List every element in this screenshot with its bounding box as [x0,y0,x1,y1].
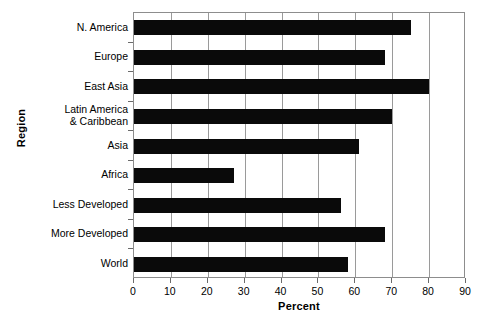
gridline-70 [392,13,393,277]
y-axis-tick [128,42,133,43]
gridline-80 [429,13,430,277]
category-label: East Asia [18,81,128,93]
x-axis-tick-50 [317,278,318,283]
category-label: More Developed [18,228,128,240]
category-label: N. America [18,22,128,34]
category-label: World [18,258,128,270]
category-axis-labels: N. AmericaEuropeEast AsiaLatin America &… [18,12,128,278]
x-axis-tick-label: 70 [376,285,406,297]
x-axis-tick-label: 90 [450,285,480,297]
x-axis-tick-40 [281,278,282,283]
y-axis-tick [128,219,133,220]
bar [134,227,385,242]
y-axis-tick [128,130,133,131]
x-axis-tick-label: 80 [413,285,443,297]
bar [134,198,341,213]
bar [134,109,392,124]
x-axis-tick-label: 60 [339,285,369,297]
x-axis-tick-label: 40 [266,285,296,297]
bar [134,79,429,94]
category-label: Asia [18,140,128,152]
x-axis-tick-20 [207,278,208,283]
bar [134,168,234,183]
bar [134,50,385,65]
category-label: Latin America & Caribbean [18,104,128,127]
y-axis-tick [128,71,133,72]
category-label: Africa [18,169,128,181]
bar [134,139,359,154]
y-axis-tick [128,189,133,190]
y-axis-tick [128,160,133,161]
y-axis-tick [128,101,133,102]
x-axis-tick-60 [354,278,355,283]
bar [134,20,411,35]
x-axis-title: Percent [133,300,465,312]
x-axis-tick-80 [428,278,429,283]
x-axis-tick-label: 0 [118,285,148,297]
category-label: Europe [18,51,128,63]
x-axis-tick-label: 30 [229,285,259,297]
x-axis-tick-label: 50 [302,285,332,297]
x-axis-tick-90 [465,278,466,283]
category-label: Less Developed [18,199,128,211]
x-axis-tick-label: 10 [155,285,185,297]
x-axis-tick-10 [170,278,171,283]
bar-chart: Region N. AmericaEuropeEast AsiaLatin Am… [0,0,492,319]
plot-area [133,12,465,278]
y-axis-tick [128,248,133,249]
x-axis-tick-0 [133,278,134,283]
x-axis-tick-70 [391,278,392,283]
x-axis-tick-label: 20 [192,285,222,297]
bar [134,257,348,272]
x-axis-tick-30 [244,278,245,283]
